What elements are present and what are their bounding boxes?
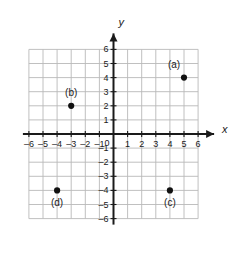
y-tick-label: 3 [103, 87, 108, 96]
data-point-label: (a) [168, 60, 180, 70]
x-tick-label: 6 [196, 140, 201, 149]
data-point [68, 103, 74, 109]
y-tick-label: 1 [103, 115, 108, 124]
y-tick-label: –3 [98, 172, 108, 181]
y-tick-label: –2 [98, 158, 108, 167]
y-tick-label: 6 [103, 45, 108, 54]
x-axis-label: x [222, 124, 228, 135]
x-tick-label: –3 [66, 140, 76, 149]
data-point [54, 187, 60, 193]
x-tick-label: –5 [38, 140, 48, 149]
y-tick-label: –6 [98, 214, 108, 223]
data-point-label: (c) [164, 198, 176, 208]
y-axis-arrowhead [110, 33, 118, 41]
x-tick-label: 1 [125, 140, 130, 149]
y-tick-label: –4 [98, 186, 108, 195]
x-tick-label: 2 [139, 140, 144, 149]
y-tick-label: 5 [103, 59, 108, 68]
x-tick-label: –2 [80, 140, 90, 149]
x-tick-label: 5 [181, 140, 186, 149]
graph-canvas [0, 0, 243, 254]
y-tick-label: 2 [103, 101, 108, 110]
coordinate-plane: –6–5–4–3–2–1123456654321–1–2–3–4–5–60xy(… [0, 0, 243, 254]
y-axis-label: y [119, 17, 125, 28]
x-axis-arrowhead [206, 130, 214, 138]
y-tick-label: 4 [103, 73, 108, 82]
y-tick-label: –5 [98, 200, 108, 209]
data-point [167, 187, 173, 193]
origin-label: 0 [104, 139, 109, 148]
x-tick-label: –6 [24, 140, 34, 149]
data-point-label: (b) [65, 88, 77, 98]
x-tick-label: 3 [153, 140, 158, 149]
x-tick-label: –4 [52, 140, 62, 149]
data-point-label: (d) [51, 198, 63, 208]
x-tick-label: 4 [167, 140, 172, 149]
data-point [181, 75, 187, 81]
